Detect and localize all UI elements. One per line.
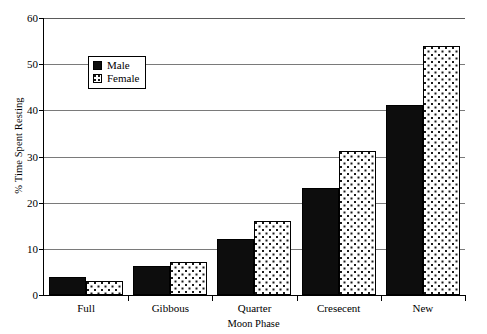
x-axis-title: Moon Phase [43, 318, 464, 329]
y-tick-label: 40 [27, 104, 38, 116]
y-tick-label: 20 [27, 197, 38, 209]
x-tick-mark [212, 295, 213, 301]
y-tick-label: 60 [27, 12, 38, 24]
x-tick-mark [128, 295, 129, 301]
legend-swatch-male-icon [93, 61, 102, 70]
bar-female-new [423, 46, 460, 295]
y-tick-mark [39, 295, 44, 296]
plot-area: 0102030405060 FullGibbousQuarterCresecen… [43, 18, 465, 296]
legend-swatch-female-icon [93, 74, 102, 83]
legend-item-female: Female [93, 72, 139, 85]
bar-group [297, 18, 381, 295]
y-tick-label: 50 [27, 58, 38, 70]
bar-male-gibbous [133, 266, 170, 295]
bar-female-quarter [254, 221, 291, 295]
x-category-label: Quarter [238, 302, 272, 314]
bar-male-new [386, 105, 423, 295]
bar-male-full [49, 277, 86, 295]
x-category-label: Full [77, 302, 95, 314]
bar-male-cresecent [302, 188, 339, 295]
bar-chart-figure: % Time Spent Resting 0102030405060 FullG… [0, 0, 487, 334]
x-tick-mark [297, 295, 298, 301]
legend-label-male: Male [107, 59, 130, 72]
bar-female-full [86, 281, 123, 295]
y-tick-label: 30 [27, 151, 38, 163]
bar-female-cresecent [339, 151, 376, 295]
x-tick-mark [381, 295, 382, 301]
y-tick-label: 0 [33, 289, 39, 301]
bar-group [212, 18, 296, 295]
y-axis-title: % Time Spent Resting [13, 56, 24, 236]
legend-label-female: Female [107, 72, 139, 85]
x-category-label: Cresecent [317, 302, 360, 314]
bar-female-gibbous [170, 262, 207, 295]
x-tick-mark [465, 295, 466, 301]
x-category-label: New [413, 302, 434, 314]
legend-item-male: Male [93, 59, 139, 72]
y-tick-label: 10 [27, 243, 38, 255]
bar-group [381, 18, 465, 295]
x-category-label: Gibbous [152, 302, 189, 314]
chart-legend: Male Female [88, 56, 146, 89]
bar-male-quarter [217, 239, 254, 295]
